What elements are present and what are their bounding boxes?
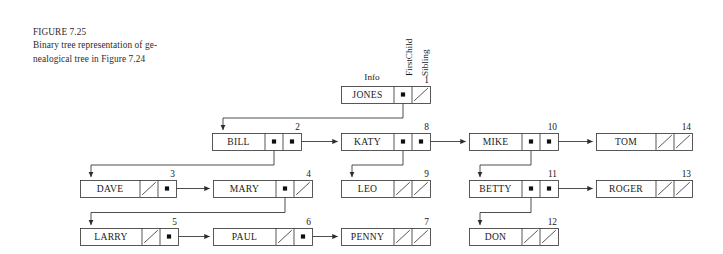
node-info-label: PAUL xyxy=(232,231,257,242)
node-sibling-cell[interactable] xyxy=(167,234,171,238)
node-firstchild-cell[interactable] xyxy=(401,92,405,96)
tree-node[interactable]: LARRY5 xyxy=(81,217,179,246)
node-sibling-cell[interactable] xyxy=(547,139,551,143)
pointer-dot xyxy=(529,139,533,143)
header-label-layer: Info FirstChild Sibling xyxy=(364,38,430,82)
node-firstchild-cell[interactable] xyxy=(401,139,405,143)
pointer-dot xyxy=(547,186,551,190)
node-index-label: 2 xyxy=(295,122,300,132)
node-sibling-cell[interactable] xyxy=(547,186,551,190)
tree-node[interactable]: PENNY7 xyxy=(342,217,431,246)
node-sibling-cell[interactable] xyxy=(290,139,294,143)
node-sibling-cell[interactable] xyxy=(419,139,423,143)
firstchild-header: FirstChild xyxy=(404,38,414,76)
tree-node[interactable]: MIKE10 xyxy=(470,122,559,151)
tree-node[interactable]: ROGER13 xyxy=(597,169,693,198)
pointer-dot xyxy=(301,234,305,238)
tree-node[interactable]: LEO9 xyxy=(342,169,431,198)
pointer-dot xyxy=(401,139,405,143)
node-info-label: DON xyxy=(485,231,507,242)
node-info-label: TOM xyxy=(615,136,637,147)
node-index-label: 12 xyxy=(548,217,558,227)
edge-layer xyxy=(91,95,593,237)
node-info-label: JONES xyxy=(352,89,382,100)
tree-diagram: JONES1BILL2KATY8MIKE10TOM14DAVE3MARY4LEO… xyxy=(0,0,723,254)
node-info-label: LEO xyxy=(358,183,378,194)
node-index-label: 7 xyxy=(424,217,429,227)
tree-node[interactable]: PAUL6 xyxy=(214,217,313,246)
node-sibling-cell[interactable] xyxy=(301,234,305,238)
pointer-dot xyxy=(401,92,405,96)
node-firstchild-cell[interactable] xyxy=(283,186,287,190)
pointer-dot xyxy=(165,186,169,190)
node-firstchild-cell[interactable] xyxy=(272,139,276,143)
pointer-dot xyxy=(419,139,423,143)
tree-node[interactable]: TOM14 xyxy=(597,122,693,151)
pointer-dot xyxy=(283,186,287,190)
node-info-label: BETTY xyxy=(479,183,511,194)
node-index-label: 14 xyxy=(682,122,692,132)
tree-node[interactable]: MARY4 xyxy=(214,169,313,198)
tree-node[interactable]: DON12 xyxy=(470,217,559,246)
node-layer: JONES1BILL2KATY8MIKE10TOM14DAVE3MARY4LEO… xyxy=(81,75,693,246)
node-firstchild-cell[interactable] xyxy=(529,139,533,143)
tree-node[interactable]: BETTY11 xyxy=(470,169,559,198)
node-index-label: 10 xyxy=(548,122,558,132)
node-firstchild-cell[interactable] xyxy=(529,186,533,190)
node-index-label: 3 xyxy=(170,169,175,179)
node-info-label: KATY xyxy=(354,136,381,147)
figure-canvas: FIGURE 7.25 Binary tree representation o… xyxy=(0,0,723,254)
pointer-dot xyxy=(547,139,551,143)
node-info-label: MIKE xyxy=(483,136,509,147)
tree-node[interactable]: JONES1 xyxy=(342,75,431,104)
pointer-dot xyxy=(529,186,533,190)
node-info-label: MARY xyxy=(230,183,259,194)
node-info-label: DAVE xyxy=(97,183,124,194)
node-info-label: BILL xyxy=(227,136,250,147)
tree-node[interactable]: KATY8 xyxy=(342,122,431,151)
tree-node[interactable]: BILL2 xyxy=(213,122,302,151)
node-index-label: 6 xyxy=(306,217,311,227)
node-index-label: 4 xyxy=(306,169,311,179)
node-info-label: PENNY xyxy=(351,231,384,242)
pointer-dot xyxy=(167,234,171,238)
node-index-label: 5 xyxy=(172,217,177,227)
node-index-label: 8 xyxy=(424,122,429,132)
node-index-label: 13 xyxy=(682,169,692,179)
pointer-dot xyxy=(290,139,294,143)
info-header: Info xyxy=(364,72,380,82)
tree-node[interactable]: DAVE3 xyxy=(81,169,177,198)
sibling-header: Sibling xyxy=(420,49,430,76)
node-sibling-cell[interactable] xyxy=(165,186,169,190)
node-index-label: 9 xyxy=(424,169,429,179)
pointer-dot xyxy=(272,139,276,143)
node-info-label: ROGER xyxy=(609,183,643,194)
node-index-label: 11 xyxy=(548,169,557,179)
node-info-label: LARRY xyxy=(94,231,128,242)
